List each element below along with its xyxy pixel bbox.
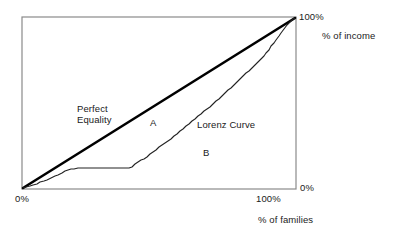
lorenz-curve-annotation: Lorenz Curve [197,119,255,130]
y-axis-title: % of income [322,30,375,41]
area-b-annotation: B [203,147,209,158]
lorenz-curve-figure: 100% % of income 0% 100% 0% % of familie… [0,0,404,238]
y-axis-min-tick-label: 0% [300,182,314,193]
x-axis-title: % of families [258,214,313,225]
x-axis-min-tick-label: 0% [15,193,29,204]
x-axis-max-tick-label: 100% [256,193,281,204]
y-axis-max-tick-label: 100% [299,11,324,22]
area-a-annotation: A [150,117,156,128]
perfect-equality-annotation: Perfect Equality [77,103,112,125]
